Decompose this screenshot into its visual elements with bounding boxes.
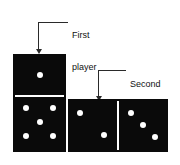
pip — [23, 133, 29, 139]
first-player-label-line2: player — [72, 62, 97, 73]
vertical-domino-top-half — [13, 54, 66, 95]
domino-figure: First player Second player — [0, 0, 180, 165]
pip — [37, 119, 43, 125]
first-player-label: First player — [72, 9, 97, 93]
pip — [128, 110, 134, 116]
horizontal-domino-left-half — [68, 99, 117, 152]
pip — [152, 134, 158, 140]
pip — [77, 110, 83, 116]
pip — [140, 122, 146, 128]
pip — [101, 132, 107, 138]
leader-vertical-segment — [38, 22, 39, 49]
vertical-domino — [13, 54, 66, 152]
leader-horizontal-segment — [98, 70, 126, 71]
horizontal-domino — [68, 99, 168, 152]
horizontal-domino-right-half — [119, 99, 168, 152]
leader-vertical-segment — [98, 70, 99, 96]
vertical-domino-bottom-half — [13, 97, 66, 152]
first-player-label-line1: First — [72, 30, 97, 41]
pip — [50, 133, 56, 139]
pip — [50, 105, 56, 111]
leader-horizontal-segment — [38, 22, 68, 23]
pip — [23, 105, 29, 111]
second-player-label-line1: Second — [130, 79, 161, 90]
first-player-leader-line — [38, 22, 70, 56]
pip — [37, 72, 43, 78]
